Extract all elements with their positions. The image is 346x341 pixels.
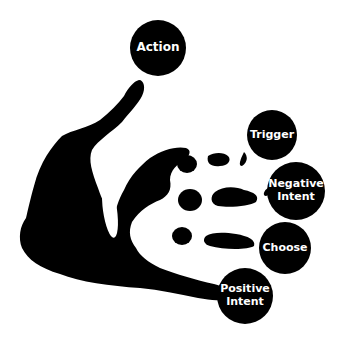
hand-diagram: Action Trigger Negative Intent Choose Po…: [0, 0, 346, 341]
node-trigger: Trigger: [247, 110, 297, 160]
node-action-label: Action: [136, 41, 179, 55]
node-choose-label: Choose: [262, 242, 307, 255]
node-positive-intent-label: Positive Intent: [220, 283, 270, 308]
node-choose: Choose: [259, 222, 311, 274]
node-negative-intent: Negative Intent: [267, 162, 325, 220]
node-negative-intent-label: Negative Intent: [268, 178, 324, 203]
node-positive-intent: Positive Intent: [217, 268, 273, 324]
node-action: Action: [130, 20, 186, 76]
node-trigger-label: Trigger: [250, 129, 294, 142]
